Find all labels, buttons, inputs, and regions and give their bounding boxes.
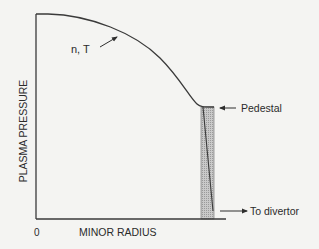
pressure-profile-diagram: n, T Pedestal To divertor 0 MINOR RADIUS…: [0, 0, 319, 249]
divertor-label: To divertor: [250, 205, 300, 217]
origin-label: 0: [34, 227, 40, 238]
pedestal-label: Pedestal: [241, 102, 282, 114]
pressure-curve: [36, 14, 214, 107]
profile-label: n, T: [71, 43, 90, 55]
profile-arrow-icon: [100, 37, 117, 47]
y-axis-label: PLASMA PRESSURE: [17, 80, 29, 183]
x-axis-label: MINOR RADIUS: [79, 226, 157, 238]
